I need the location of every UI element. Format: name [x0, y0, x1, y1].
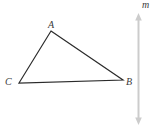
vertex-b-label: B — [126, 77, 132, 87]
line-m-label: m — [142, 0, 149, 10]
vertex-c-label: C — [5, 77, 12, 87]
line-m-down-arrowhead-icon — [135, 118, 142, 126]
triangle-abc — [19, 31, 123, 83]
geometry-figure: A B C m — [0, 0, 154, 127]
vertex-a-label: A — [45, 20, 57, 30]
figure-drawing — [0, 0, 154, 127]
line-m-up-arrowhead-icon — [135, 13, 142, 21]
